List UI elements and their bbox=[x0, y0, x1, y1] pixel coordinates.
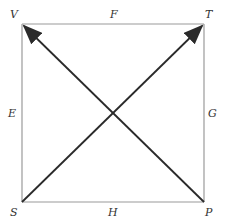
edge-label-f: F bbox=[109, 8, 118, 21]
vertex-label-v: V bbox=[10, 8, 19, 21]
arrow-s-to-t bbox=[22, 26, 202, 202]
vertex-label-s: S bbox=[10, 206, 18, 219]
edge-label-g: G bbox=[208, 107, 217, 120]
square-diagram: V T S P F E G H bbox=[0, 0, 226, 224]
edge-label-e: E bbox=[7, 107, 16, 120]
edge-label-h: H bbox=[107, 206, 118, 219]
vertex-label-t: T bbox=[205, 8, 214, 21]
vertex-label-p: P bbox=[204, 206, 213, 219]
arrow-p-to-v bbox=[24, 26, 204, 202]
